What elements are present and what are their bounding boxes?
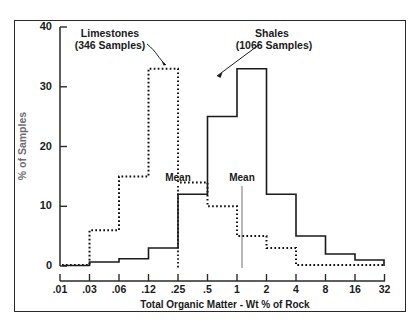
y-axis-ticks (60, 27, 67, 266)
x-axis-ticks (60, 274, 385, 281)
y-axis-title: % of Samples (16, 98, 28, 194)
limestones-leader-arrow (162, 61, 167, 66)
y-tick-label-0: 0 (24, 259, 52, 271)
x-tick-label-10: 16 (339, 284, 371, 296)
y-tick-label-40: 40 (24, 20, 52, 32)
series-shales-curve (62, 69, 384, 266)
series-limestones-curve (62, 69, 384, 265)
x-tick-label-11: 32 (369, 284, 401, 296)
mean-label-limestones: Mean (154, 172, 202, 183)
annotation-shales-title: Shales (230, 28, 314, 40)
x-tick-label-9: 8 (310, 284, 342, 296)
x-tick-label-3: .12 (133, 284, 165, 296)
x-tick-label-1: .03 (74, 284, 106, 296)
y-tick-label-20: 20 (24, 140, 52, 152)
annotation-shales-count: (1066 Samples) (222, 40, 326, 52)
y-tick-label-10: 10 (24, 199, 52, 211)
mean-label-shales: Mean (218, 172, 266, 183)
y-tick-label-30: 30 (24, 80, 52, 92)
x-tick-label-6: 1 (221, 284, 253, 296)
x-tick-label-2: .06 (103, 284, 135, 296)
x-tick-label-5: .5 (192, 284, 224, 296)
x-tick-label-7: 2 (251, 284, 283, 296)
annotation-limestones-title: Limestones (60, 28, 160, 40)
x-axis-title: Total Organic Matter - Wt % of Rock (100, 299, 350, 310)
x-tick-label-8: 4 (280, 284, 312, 296)
chart-figure: 40 30 20 10 0 % of Samples .01 .03 .06 .… (0, 0, 420, 329)
x-tick-label-4: .25 (162, 284, 194, 296)
annotation-limestones-count: (346 Samples) (56, 40, 164, 52)
x-tick-label-0: .01 (44, 284, 76, 296)
